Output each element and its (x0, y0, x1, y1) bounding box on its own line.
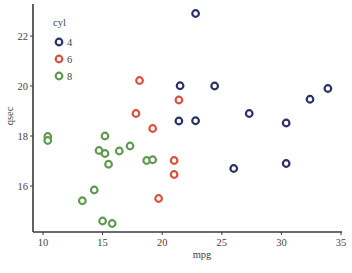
data-point (91, 187, 98, 194)
legend-label: 6 (67, 54, 72, 65)
data-point (176, 97, 183, 104)
data-point (325, 85, 332, 92)
legend-entry: 4 (56, 37, 73, 48)
data-point (127, 143, 134, 150)
data-point (133, 110, 140, 117)
x-axis-title: mpg (193, 249, 212, 260)
x-ticks: 101520253035 (38, 232, 347, 248)
legend-key-marker (56, 56, 63, 63)
data-point (211, 83, 218, 90)
data-point (192, 10, 199, 17)
series-cyl-6 (133, 77, 183, 202)
legend: cyl 468 (53, 17, 73, 82)
series-cyl-8 (44, 133, 155, 227)
legend-label: 8 (67, 71, 72, 82)
y-tick-label: 20 (18, 81, 29, 92)
data-point (102, 150, 109, 157)
y-tick-label: 16 (18, 181, 29, 192)
legend-entry: 8 (56, 71, 73, 82)
data-point (176, 118, 183, 125)
legend-entries: 468 (56, 37, 73, 82)
x-tick-label: 15 (97, 237, 108, 248)
data-point (171, 171, 178, 178)
data-point (171, 157, 178, 164)
data-point (149, 125, 156, 132)
x-tick-label: 35 (336, 237, 347, 248)
y-axis-title: qsec (4, 106, 15, 125)
data-point (307, 96, 314, 103)
data-point (79, 197, 86, 204)
x-tick-label: 10 (38, 237, 49, 248)
legend-title: cyl (53, 17, 66, 28)
data-point (177, 82, 184, 89)
data-point (105, 161, 112, 168)
y-tick-label: 18 (18, 131, 29, 142)
data-point (109, 220, 116, 227)
x-tick-label: 30 (276, 237, 287, 248)
data-point (102, 133, 109, 140)
data-point (44, 137, 51, 144)
series-cyl-4 (176, 10, 332, 172)
legend-key-marker (56, 73, 63, 80)
data-point (149, 156, 156, 163)
data-points (44, 10, 331, 227)
data-point (283, 160, 290, 167)
x-tick-label: 20 (157, 237, 168, 248)
data-point (246, 110, 253, 117)
data-point (99, 218, 106, 225)
legend-key-marker (56, 39, 63, 46)
legend-label: 4 (67, 37, 73, 48)
y-tick-label: 22 (18, 31, 29, 42)
data-point (283, 120, 290, 127)
legend-entry: 6 (56, 54, 73, 65)
data-point (230, 165, 237, 172)
data-point (155, 195, 162, 202)
data-point (116, 148, 123, 155)
y-ticks: 16182022 (18, 31, 34, 192)
x-tick-label: 25 (217, 237, 228, 248)
data-point (136, 77, 143, 84)
scatter-chart: 101520253035 16182022 mpg qsec cyl 468 (0, 0, 352, 273)
data-point (192, 117, 199, 124)
